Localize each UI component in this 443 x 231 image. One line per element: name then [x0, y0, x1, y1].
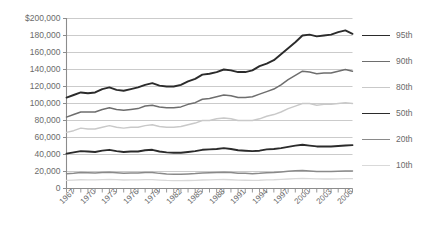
legend-item-20th[interactable]: 20th — [362, 134, 413, 144]
series-line-10th — [67, 178, 353, 180]
y-axis-tick-label: $200,000 — [25, 14, 60, 23]
legend-item-10th[interactable]: 10th — [362, 160, 413, 170]
y-axis-tick-label: 180,000 — [30, 31, 61, 40]
legend-label: 10th — [396, 160, 413, 170]
legend-line-swatch — [362, 87, 390, 88]
y-axis-tick-label: 140,000 — [30, 65, 61, 74]
legend-line-swatch — [362, 113, 390, 114]
legend-label: 80th — [396, 82, 413, 92]
y-axis-tick-label: 100,000 — [30, 99, 61, 108]
legend-line-swatch — [362, 165, 390, 166]
y-axis-tick-label: 20,000 — [35, 167, 61, 176]
y-axis-tick-label: 120,000 — [30, 82, 61, 91]
legend-item-90th[interactable]: 90th — [362, 56, 413, 66]
legend-item-50th[interactable]: 50th — [362, 108, 413, 118]
y-axis-tick-label: 60,000 — [35, 133, 61, 142]
series-line-95th — [67, 30, 353, 97]
legend-label: 50th — [396, 108, 413, 118]
chart-legend: 95th90th80th50th20th10th — [362, 0, 443, 200]
y-axis-tick-label: 160,000 — [30, 48, 61, 57]
legend-label: 95th — [396, 30, 413, 40]
y-axis-tick-label: 0 — [56, 184, 61, 193]
y-axis-tick-label: 40,000 — [35, 150, 61, 159]
income-percentile-chart: 020,00040,00060,00080,000100,000120,0001… — [0, 0, 443, 231]
series-line-20th — [67, 170, 353, 174]
y-axis-tick-label: 80,000 — [35, 116, 61, 125]
legend-line-swatch — [362, 61, 390, 62]
series-line-90th — [67, 70, 353, 118]
legend-line-swatch — [362, 139, 390, 140]
legend-label: 90th — [396, 56, 413, 66]
series-line-50th — [67, 145, 353, 154]
legend-item-95th[interactable]: 95th — [362, 30, 413, 40]
legend-item-80th[interactable]: 80th — [362, 82, 413, 92]
legend-label: 20th — [396, 134, 413, 144]
legend-line-swatch — [362, 35, 390, 36]
